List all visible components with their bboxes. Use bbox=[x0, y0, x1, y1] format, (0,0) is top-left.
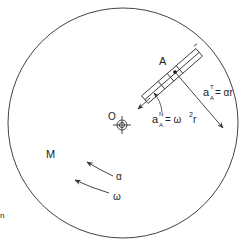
omega-label: ω bbox=[113, 191, 121, 202]
diagram-canvas: O A a T A = αr a N A = ω 2 r M α ω n bbox=[0, 0, 240, 245]
edge-text-fragment: n bbox=[0, 211, 4, 220]
tangential-accel-label: a T A = αr bbox=[203, 84, 233, 101]
svg-text:= αr: = αr bbox=[215, 87, 233, 98]
disk-label: M bbox=[46, 148, 55, 160]
point-a-label: A bbox=[159, 55, 167, 67]
alpha-label: α bbox=[116, 171, 122, 182]
tangential-accel-arrow bbox=[175, 72, 223, 128]
svg-text:= ω: = ω bbox=[165, 114, 182, 125]
bar-element bbox=[140, 44, 206, 104]
svg-text:a: a bbox=[203, 86, 210, 98]
normal-accel-label: a N A = ω 2 r bbox=[152, 111, 197, 128]
svg-text:N: N bbox=[159, 111, 163, 117]
svg-text:r: r bbox=[193, 114, 197, 125]
center-label: O bbox=[108, 111, 116, 122]
omega-arrow bbox=[75, 180, 109, 193]
svg-text:T: T bbox=[210, 84, 214, 90]
normal-label-leader bbox=[154, 93, 162, 112]
svg-text:A: A bbox=[159, 122, 163, 128]
alpha-arrow bbox=[87, 162, 113, 176]
svg-text:A: A bbox=[210, 95, 214, 101]
svg-text:a: a bbox=[152, 113, 159, 125]
